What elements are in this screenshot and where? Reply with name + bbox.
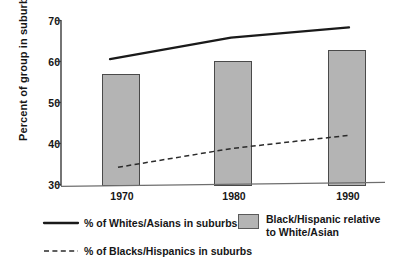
legend-label-whites-asians: % of Whites/Asians in suburbs: [84, 217, 237, 230]
y-tick-label-50: 50: [36, 97, 60, 109]
bar-1970: [102, 74, 140, 186]
x-tick-label-1970: 1970: [100, 190, 144, 202]
legend-label-bar-line1: Black/Hispanic relative: [266, 213, 380, 226]
chart-figure: Percent of group in suburbs 70 60 50 40 …: [0, 0, 399, 266]
y-tick-label-40: 40: [36, 138, 60, 150]
legend-label-blacks-hispanics: % of Blacks/Hispanics in suburbs: [84, 245, 252, 258]
line-whites-asians: [110, 27, 349, 59]
bar-1990: [328, 50, 366, 186]
y-tick-label-30: 30: [36, 179, 60, 191]
y-tick-label-60: 60: [36, 56, 60, 68]
x-tick-label-1990: 1990: [326, 190, 370, 202]
y-axis-title: Percent of group in suburbs: [17, 0, 29, 151]
x-tick-label-1980: 1980: [212, 190, 256, 202]
legend-label-bar-line2: to White/Asian: [266, 226, 339, 239]
y-tick-label-70: 70: [36, 15, 60, 27]
legend-bar-swatch: [238, 214, 259, 229]
bar-1980: [214, 61, 252, 186]
